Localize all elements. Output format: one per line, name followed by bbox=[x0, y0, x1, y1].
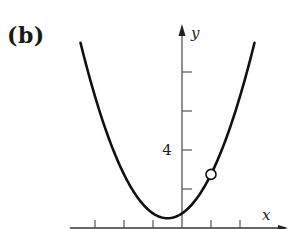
x-axis-label: x bbox=[262, 206, 271, 224]
y-axis-arrow-icon bbox=[179, 24, 186, 36]
y-axis-label: y bbox=[190, 24, 200, 42]
y-tick-label: 4 bbox=[162, 141, 172, 159]
figure: (b) 4yx bbox=[0, 0, 288, 229]
x-axis-arrow-icon bbox=[278, 225, 288, 229]
panel-label: (b) bbox=[7, 22, 45, 48]
open-circle-marker bbox=[206, 169, 216, 179]
parabola-curve bbox=[81, 43, 255, 219]
